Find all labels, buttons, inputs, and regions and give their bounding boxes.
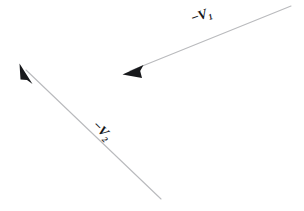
vector-diagram-svg [0, 0, 304, 211]
vector-v1-arrowhead [123, 65, 144, 78]
vector-diagram-canvas: −V1 −V2 [0, 0, 304, 211]
